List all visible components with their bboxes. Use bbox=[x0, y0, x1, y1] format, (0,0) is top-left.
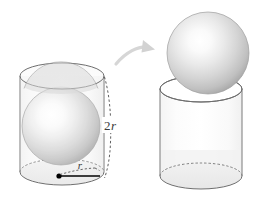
right-cylinder-base-shade bbox=[161, 164, 242, 189]
transfer-arrow-head bbox=[142, 40, 156, 53]
right-panel-group bbox=[160, 12, 249, 189]
height-label-coefficient: 2 bbox=[104, 118, 111, 133]
height-label: 2r bbox=[104, 118, 117, 133]
figure-canvas: r 2r bbox=[0, 0, 267, 201]
left-panel-group: r 2r bbox=[20, 62, 122, 185]
radius-label: r bbox=[78, 159, 83, 171]
removed-sphere bbox=[167, 12, 249, 94]
geometry-figure: r 2r bbox=[0, 0, 267, 201]
transfer-arrow-group bbox=[116, 40, 155, 64]
